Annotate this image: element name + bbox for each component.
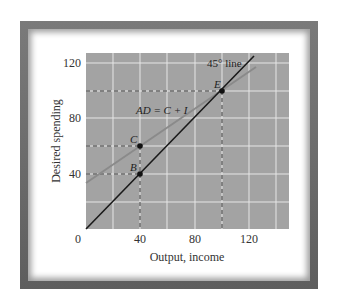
label-b: B: [130, 161, 137, 173]
label-45-line: 45° line: [207, 57, 242, 69]
label-c: C: [130, 133, 138, 145]
point-b: [137, 171, 143, 177]
x-axis-label: Output, income: [150, 250, 225, 264]
plot-area: [86, 53, 289, 229]
y-tick-80: 80: [69, 111, 81, 125]
label-e: E: [213, 78, 221, 90]
chart: B C E AD = C + I 45° line 120 80 40 0 40…: [0, 0, 337, 305]
y-axis-label: Desired spending: [49, 99, 63, 183]
y-tick-40: 40: [69, 167, 81, 181]
x-tick-40: 40: [134, 232, 146, 246]
origin-label: 0: [75, 232, 81, 246]
point-c: [137, 143, 143, 149]
x-tick-120: 120: [240, 232, 258, 246]
label-ad: AD = C + I: [135, 104, 189, 116]
y-tick-120: 120: [63, 56, 81, 70]
x-tick-80: 80: [189, 232, 201, 246]
